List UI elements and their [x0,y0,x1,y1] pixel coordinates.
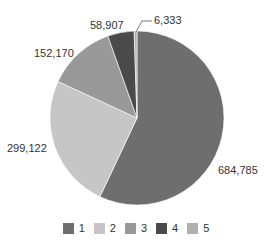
legend-swatch [187,223,198,234]
legend-swatch [156,223,167,234]
legend-item-2[interactable]: 2 [94,222,116,234]
leader-line [136,21,152,32]
legend-label: 5 [203,222,209,234]
slice-value-label: 684,785 [218,164,258,176]
legend-item-1[interactable]: 1 [63,222,85,234]
legend-swatch [63,223,74,234]
legend-item-5[interactable]: 5 [187,222,209,234]
legend-item-4[interactable]: 4 [156,222,178,234]
legend-label: 2 [110,222,116,234]
slice-value-label: 58,907 [90,19,124,31]
pie-slices [50,31,224,205]
legend-swatch [94,223,105,234]
slice-value-label: 152,170 [34,47,74,59]
slice-value-label: 299,122 [7,142,47,154]
slice-value-label: 6,333 [154,14,182,26]
legend-item-3[interactable]: 3 [125,222,147,234]
legend: 1 2 3 4 5 [0,222,272,234]
legend-label: 3 [141,222,147,234]
legend-label: 4 [172,222,178,234]
legend-swatch [125,223,136,234]
legend-label: 1 [79,222,85,234]
pie-chart: 684,785299,122152,17058,9076,333 [0,0,272,249]
